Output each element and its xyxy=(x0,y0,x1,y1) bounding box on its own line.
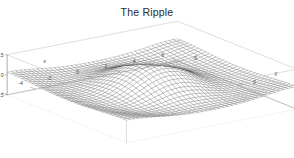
plot-canvas: -6-4-20246-505-0.500.5xyz xyxy=(0,0,294,158)
svg-text:0.5: 0.5 xyxy=(0,52,4,58)
svg-text:6: 6 xyxy=(161,52,164,58)
svg-text:4: 4 xyxy=(133,58,136,64)
svg-text:x: x xyxy=(43,58,46,64)
svg-text:0: 0 xyxy=(1,72,4,78)
svg-text:2: 2 xyxy=(104,63,107,69)
svg-text:-4: -4 xyxy=(18,80,23,86)
svg-text:0: 0 xyxy=(253,79,256,85)
svg-text:y: y xyxy=(275,70,278,76)
svg-text:-5: -5 xyxy=(192,55,197,61)
svg-text:-2: -2 xyxy=(47,75,52,81)
svg-text:-0.5: -0.5 xyxy=(0,92,4,98)
ripple-surface-plot: The Ripple -6-4-20246-505-0.500.5xyz xyxy=(0,0,294,158)
svg-text:0: 0 xyxy=(76,69,79,75)
